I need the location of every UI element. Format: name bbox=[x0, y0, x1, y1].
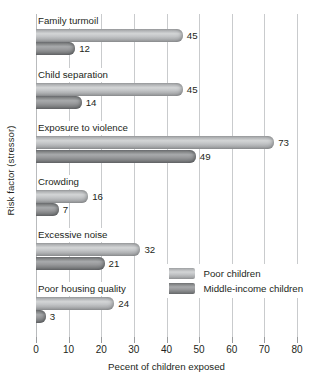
x-tick-label: 10 bbox=[63, 344, 74, 355]
bar[interactable] bbox=[36, 190, 88, 203]
category-label: Excessive noise bbox=[38, 228, 110, 242]
bar-row: 32 bbox=[36, 243, 297, 256]
bar-value-label: 21 bbox=[105, 257, 120, 270]
bar[interactable] bbox=[36, 257, 105, 270]
x-tick-30 bbox=[134, 337, 135, 343]
x-tick-0 bbox=[36, 337, 37, 343]
x-tick-40 bbox=[167, 337, 168, 343]
bar-value-label: 45 bbox=[183, 83, 198, 96]
bar-group: Exposure to violence7349 bbox=[36, 121, 297, 175]
y-axis-title-text: Risk factor (stressor) bbox=[6, 125, 17, 215]
legend: Poor childrenMiddle-income children bbox=[167, 264, 307, 298]
bar-row: 12 bbox=[36, 42, 297, 55]
x-tick-80 bbox=[297, 337, 298, 343]
legend-item[interactable]: Middle-income children bbox=[169, 281, 304, 296]
legend-label: Poor children bbox=[204, 268, 261, 279]
y-axis-title: Risk factor (stressor) bbox=[0, 0, 22, 340]
legend-item[interactable]: Poor children bbox=[169, 266, 304, 281]
bar-value-label: 3 bbox=[46, 310, 55, 323]
bar-group: Child separation4514 bbox=[36, 68, 297, 122]
x-tick-label: 70 bbox=[259, 344, 270, 355]
bar[interactable] bbox=[36, 83, 183, 96]
bar-group: Family turmoil4512 bbox=[36, 14, 297, 68]
bar-value-label: 32 bbox=[140, 243, 155, 256]
x-tick-label: 60 bbox=[226, 344, 237, 355]
bar-value-label: 7 bbox=[59, 203, 68, 216]
bar-value-label: 24 bbox=[114, 297, 129, 310]
x-tick-label: 50 bbox=[194, 344, 205, 355]
bar-row: 49 bbox=[36, 150, 297, 163]
x-tick-60 bbox=[232, 337, 233, 343]
category-label: Family turmoil bbox=[38, 14, 101, 28]
x-tick-label: 80 bbox=[291, 344, 302, 355]
x-tick-20 bbox=[101, 337, 102, 343]
plot-area: Family turmoil4512Child separation4514Ex… bbox=[36, 14, 297, 337]
bar-chart: Risk factor (stressor) Family turmoil451… bbox=[0, 0, 318, 381]
category-label: Exposure to violence bbox=[38, 121, 131, 135]
bar[interactable] bbox=[36, 42, 75, 55]
x-axis: 01020304050607080 bbox=[36, 337, 297, 359]
x-tick-label: 30 bbox=[128, 344, 139, 355]
bar-row: 3 bbox=[36, 310, 297, 323]
bar-row: 73 bbox=[36, 136, 297, 149]
bar-value-label: 45 bbox=[183, 29, 198, 42]
bar[interactable] bbox=[36, 203, 59, 216]
bar[interactable] bbox=[36, 136, 274, 149]
bar-row: 14 bbox=[36, 96, 297, 109]
bar[interactable] bbox=[36, 29, 183, 42]
bar[interactable] bbox=[36, 297, 114, 310]
legend-swatch bbox=[169, 283, 195, 294]
bar-row: 24 bbox=[36, 297, 297, 310]
bar-row: 7 bbox=[36, 203, 297, 216]
x-tick-10 bbox=[69, 337, 70, 343]
bar-value-label: 49 bbox=[196, 150, 211, 163]
legend-swatch bbox=[169, 268, 195, 279]
x-tick-label: 40 bbox=[161, 344, 172, 355]
bar[interactable] bbox=[36, 96, 82, 109]
x-tick-label: 20 bbox=[96, 344, 107, 355]
bar-value-label: 73 bbox=[274, 136, 289, 149]
bar-row: 16 bbox=[36, 190, 297, 203]
bar-row: 45 bbox=[36, 29, 297, 42]
legend-label: Middle-income children bbox=[204, 283, 304, 294]
category-label: Crowding bbox=[38, 175, 82, 189]
bar[interactable] bbox=[36, 243, 140, 256]
bar-group: Crowding167 bbox=[36, 175, 297, 229]
x-tick-50 bbox=[199, 337, 200, 343]
bar-row: 45 bbox=[36, 83, 297, 96]
x-tick-70 bbox=[264, 337, 265, 343]
bar-value-label: 16 bbox=[88, 190, 103, 203]
category-label: Child separation bbox=[38, 68, 111, 82]
bar[interactable] bbox=[36, 150, 196, 163]
bar[interactable] bbox=[36, 310, 46, 323]
bar-value-label: 14 bbox=[82, 96, 97, 109]
bar-value-label: 12 bbox=[75, 42, 90, 55]
x-axis-title: Pecent of children exposed bbox=[36, 361, 297, 372]
category-label: Poor housing quality bbox=[38, 282, 129, 296]
x-tick-label: 0 bbox=[33, 344, 39, 355]
